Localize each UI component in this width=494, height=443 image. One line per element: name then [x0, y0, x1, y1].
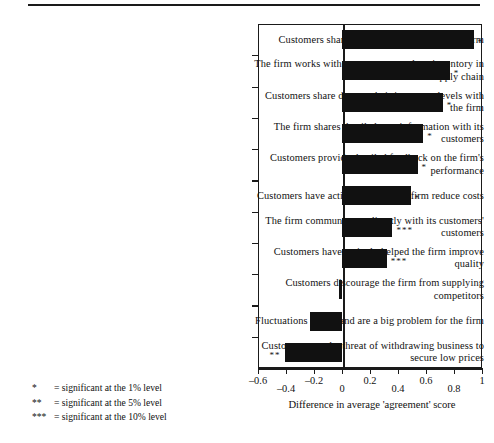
y-axis-tick: [252, 118, 258, 119]
bar: [342, 186, 411, 205]
bar: [342, 124, 423, 143]
table-row: Customers discourage the firm from suppl…: [0, 274, 494, 305]
bar: [342, 218, 392, 237]
legend-note-text: = significant at the 5% level: [54, 397, 162, 408]
x-axis-tick: [426, 368, 427, 374]
x-axis-tick: [258, 368, 259, 374]
figure: Customers share demand forecasts with th…: [0, 0, 494, 443]
y-axis-tick: [252, 274, 258, 275]
table-row: The firm communicates directly with its …: [0, 212, 494, 243]
significance-marker: **: [270, 351, 281, 360]
bar: [342, 155, 418, 174]
y-axis-tick: [252, 243, 258, 244]
legend-note-stars: **: [32, 396, 54, 411]
x-axis-tick: [370, 368, 371, 374]
table-row: Customers have actively helped the firm …: [0, 180, 494, 211]
table-row: Customers share demand forecasts with th…: [0, 24, 494, 55]
table-row: Customers share data on their inventory …: [0, 87, 494, 118]
table-row: Customers use the threat of withdrawing …: [0, 337, 494, 368]
y-axis-tick: [252, 305, 258, 306]
table-row: Customers have actively helped the firm …: [0, 243, 494, 274]
bar: [285, 343, 342, 362]
x-axis-tick: [454, 368, 455, 374]
legend-note-stars: *: [32, 381, 54, 396]
significance-marker: *: [447, 101, 453, 110]
legend-note: ***= significant at the 10% level: [32, 410, 167, 425]
x-axis-tick: [286, 368, 287, 374]
significance-legend: *= significant at the 1% level**= signif…: [32, 381, 167, 425]
top-rule: [28, 4, 480, 6]
x-axis-tick: [398, 368, 399, 374]
legend-note-text: = significant at the 10% level: [54, 411, 167, 422]
significance-marker: *: [422, 163, 428, 172]
legend-note: **= significant at the 5% level: [32, 396, 167, 411]
x-axis-tick: [482, 368, 483, 374]
category-label: Customers discourage the firm from suppl…: [250, 277, 494, 302]
bar: [339, 280, 342, 299]
y-axis-tick: [252, 87, 258, 88]
significance-marker: ***: [391, 257, 408, 266]
x-axis-tick-label: 1: [462, 375, 494, 387]
x-axis-tick: [314, 368, 315, 374]
table-row: The firm shares detailed cost informatio…: [0, 118, 494, 149]
y-axis-tick: [252, 55, 258, 56]
x-axis-tick: [342, 368, 343, 374]
bar: [342, 93, 443, 112]
legend-note-stars: ***: [32, 410, 54, 425]
table-row: Fluctuations in demand are a big problem…: [0, 305, 494, 336]
significance-marker: *: [415, 194, 421, 203]
significance-marker: ***: [396, 226, 413, 235]
legend-note-text: = significant at the 1% level: [54, 382, 162, 393]
significance-marker: *: [478, 38, 484, 47]
bar: [342, 30, 474, 49]
table-row: Customers provide detailed feedback on t…: [0, 149, 494, 180]
significance-marker: *: [454, 69, 460, 78]
bar: [342, 61, 450, 80]
significance-marker: *: [427, 132, 433, 141]
x-axis-title: Difference in average 'agreement' score: [250, 399, 494, 410]
table-row: The firm works with customers to reduce …: [0, 55, 494, 86]
bar-rows: Customers share demand forecasts with th…: [0, 24, 494, 368]
y-axis-tick: [252, 149, 258, 150]
y-axis-tick: [252, 180, 258, 181]
y-axis-tick: [252, 212, 258, 213]
category-label: Fluctuations in demand are a big problem…: [250, 315, 494, 327]
bar: [342, 249, 387, 268]
legend-note: *= significant at the 1% level: [32, 381, 167, 396]
y-axis-tick: [252, 337, 258, 338]
bar: [310, 312, 342, 331]
